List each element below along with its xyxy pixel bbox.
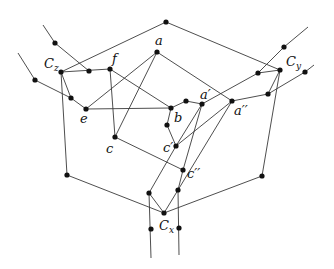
label-c-dprime: c′′ — [187, 166, 200, 181]
node-a — [154, 49, 159, 54]
label-a-dprime: a′′ — [234, 103, 248, 118]
label-Cy: Cy — [286, 54, 302, 71]
node-c-prime — [173, 143, 178, 148]
label-Cx: Cx — [159, 218, 174, 235]
node-b2 — [164, 122, 169, 127]
label-b: b — [174, 110, 182, 125]
node-f — [107, 66, 112, 71]
node-Cz — [58, 69, 63, 74]
graph-diagram: a f e b c a′ a′′ c′ c′′ Cz Cy Cx — [0, 0, 334, 269]
label-Cz: Cz — [44, 56, 59, 73]
node-y2 — [255, 70, 260, 75]
node-c-dprime — [180, 167, 185, 172]
node-ly — [259, 173, 264, 178]
node-x3 — [148, 226, 153, 231]
node-y4 — [265, 91, 270, 96]
label-a-prime: a′ — [200, 87, 211, 102]
node-y1 — [281, 44, 286, 49]
label-c: c — [106, 141, 114, 156]
node-Cx — [161, 210, 166, 215]
node-top — [163, 19, 168, 24]
node-z2 — [86, 68, 91, 73]
node-x4 — [176, 225, 181, 230]
node-y3 — [302, 69, 307, 74]
node-b — [168, 105, 173, 110]
node-Cy — [277, 67, 282, 72]
node-lz — [64, 172, 69, 177]
node-z1 — [52, 40, 57, 45]
node-c — [112, 134, 117, 139]
nodes — [32, 19, 307, 231]
label-a: a — [155, 33, 163, 48]
node-z3 — [32, 77, 37, 82]
node-bb — [183, 98, 188, 103]
node-x1 — [146, 190, 151, 195]
node-z4 — [68, 95, 73, 100]
node-x2 — [175, 187, 180, 192]
label-f: f — [111, 51, 119, 66]
label-e: e — [80, 111, 88, 126]
node-a-prime — [199, 101, 204, 106]
label-c-prime: c′ — [163, 140, 173, 155]
